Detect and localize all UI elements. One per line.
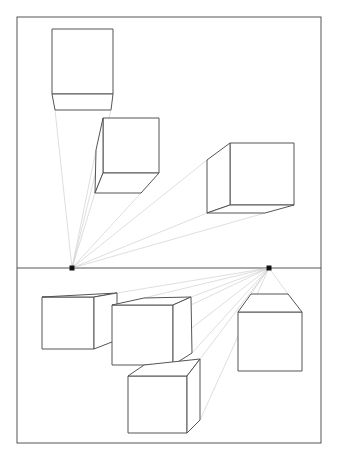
box-bottom-left <box>42 293 117 349</box>
box-face <box>52 29 113 94</box>
box-face <box>238 312 302 371</box>
box-top-right <box>207 143 294 213</box>
box-face <box>230 143 294 205</box>
box-face <box>112 305 173 365</box>
box-face <box>173 297 192 365</box>
guide-line <box>72 150 96 268</box>
box-face <box>103 118 159 173</box>
box-top-middle <box>95 118 159 193</box>
box-face <box>95 173 159 193</box>
perspective-drawing: Two-point perspective boxes drawing <box>0 0 338 460</box>
guide-line <box>144 268 269 298</box>
box-face <box>207 143 230 213</box>
guide-line <box>191 268 269 297</box>
box-bottom-right <box>238 294 302 371</box>
guide-line <box>72 193 95 268</box>
box-face <box>42 297 94 349</box>
left-vanishing-point <box>70 266 75 271</box>
right-vanishing-point <box>267 266 272 271</box>
guide-line <box>72 193 141 268</box>
guide-line <box>269 268 288 294</box>
box-bottom-lower <box>128 359 200 433</box>
box-face <box>52 94 113 110</box>
box-face <box>128 376 187 433</box>
guide-line <box>72 213 207 268</box>
guide-line <box>55 110 72 268</box>
guide-line <box>72 213 265 268</box>
guide-line <box>117 268 269 293</box>
box-top-left <box>52 29 113 110</box>
box-bottom-middle <box>112 297 192 365</box>
